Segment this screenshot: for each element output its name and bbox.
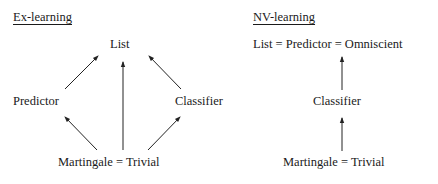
arrow-martingale-to-predictor [65,117,97,150]
arrow-classifier-to-list [149,56,181,89]
arrow-predictor-to-list [65,56,98,89]
arrow-martingale-to-classifier [148,117,180,150]
arrows-layer [0,0,438,184]
